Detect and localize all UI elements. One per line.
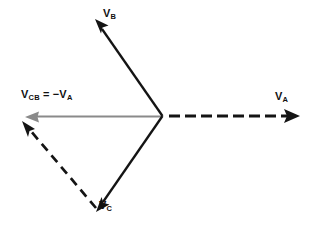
label-vb-symbol: V <box>103 7 111 19</box>
vector-vc <box>96 116 163 212</box>
label-va-symbol: V <box>275 90 283 102</box>
label-va: VA <box>275 91 288 102</box>
vector-vb-shaft <box>102 29 163 116</box>
label-vc-symbol: V <box>99 199 107 211</box>
vector-vcb-arrowhead <box>25 112 39 123</box>
label-vb-subscript: B <box>111 12 117 21</box>
label-vcb-minus-symbol: −V <box>53 88 67 100</box>
label-vcb-minus-subscript: A <box>67 93 73 102</box>
construction-shaft <box>30 130 96 208</box>
phasor-diagram-figure: VB VA VC VCB = −VA <box>0 0 310 231</box>
label-vb: VB <box>103 8 116 19</box>
vector-vcb <box>25 112 161 123</box>
phasor-diagram-canvas <box>0 0 310 231</box>
vector-vb-arrowhead <box>95 19 109 34</box>
vector-va <box>169 109 300 123</box>
label-vc: VC <box>99 200 112 211</box>
label-vcb-subscript: CB <box>29 93 40 102</box>
label-vc-subscript: C <box>107 204 113 213</box>
vector-construction-dashed <box>22 121 96 208</box>
label-vcb-equals: = <box>43 88 50 100</box>
label-vcb: VCB = −VA <box>21 89 73 100</box>
label-vcb-symbol: V <box>21 88 29 100</box>
vector-vb <box>95 19 163 116</box>
vector-vc-shaft <box>103 116 163 202</box>
label-va-subscript: A <box>283 95 289 104</box>
